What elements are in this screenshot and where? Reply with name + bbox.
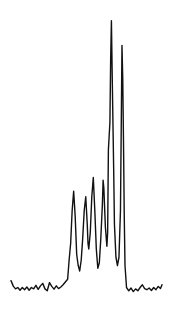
series-layer: [11, 21, 162, 292]
series-line-trace: [11, 21, 162, 292]
spectrum-plot: [0, 0, 171, 312]
